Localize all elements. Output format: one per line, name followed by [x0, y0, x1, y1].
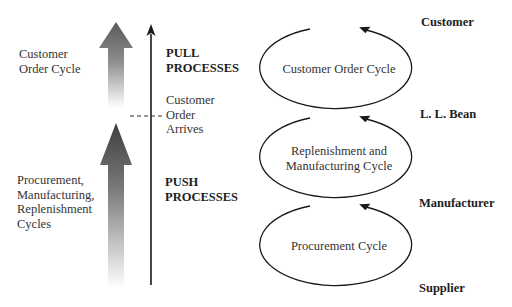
label-line: Procurement,: [17, 173, 94, 188]
stage-manufacturer: Manufacturer: [419, 196, 494, 211]
stage-ll-bean: L. L. Bean: [420, 107, 476, 122]
label-line: Replenishment: [17, 202, 94, 217]
stage-supplier: Supplier: [419, 281, 465, 296]
label-line: Arrives: [166, 122, 215, 137]
label-line: PROCESSES: [166, 61, 239, 76]
procurement-cycle-label: Procurement Cycle: [263, 239, 415, 254]
label-line: Customer: [166, 93, 215, 108]
label-line: Customer Order Cycle: [263, 62, 415, 77]
label-line: Customer: [19, 47, 80, 62]
label-line: Manufacturing,: [17, 188, 94, 203]
replenishment-manufacturing-cycle-label: Replenishment and Manufacturing Cycle: [263, 144, 415, 173]
label-line: Procurement Cycle: [263, 239, 415, 254]
push-cycles-side-label: Procurement, Manufacturing, Replenishmen…: [17, 173, 94, 231]
label-line: Cycles: [17, 217, 94, 232]
label-line: Manufacturing Cycle: [263, 159, 415, 174]
customer-order-cycle-label: Customer Order Cycle: [263, 62, 415, 77]
label-line: PROCESSES: [165, 190, 238, 205]
push-processes-label: PUSH PROCESSES: [165, 175, 238, 204]
customer-order-cycle-side-label: Customer Order Cycle: [19, 47, 80, 76]
stage-customer: Customer: [421, 15, 474, 30]
pull-gradient-arrow-icon: [99, 22, 133, 108]
label-line: Order Cycle: [19, 62, 80, 77]
label-line: Replenishment and: [263, 144, 415, 159]
label-line: PULL: [166, 46, 239, 61]
process-axis-arrow-icon: [147, 24, 156, 285]
label-line: PUSH: [165, 175, 238, 190]
label-line: Order: [166, 108, 215, 123]
pull-processes-label: PULL PROCESSES: [166, 46, 239, 75]
customer-order-arrives-label: Customer Order Arrives: [166, 93, 215, 137]
push-gradient-arrow-icon: [100, 123, 132, 288]
